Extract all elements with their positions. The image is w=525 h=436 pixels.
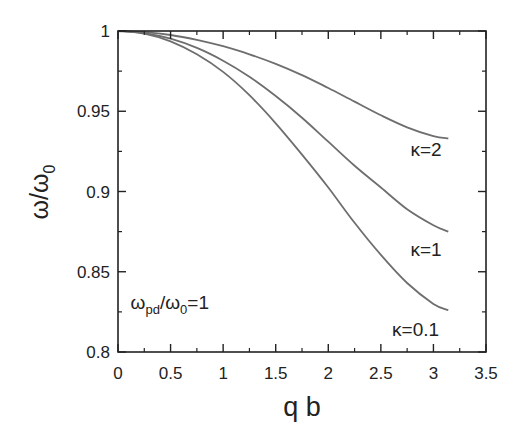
curves bbox=[118, 31, 448, 310]
chart-svg: 00.511.522.533.5 0.80.850.90.951 κ=2κ=1κ… bbox=[0, 0, 525, 436]
y-tick-label: 1 bbox=[101, 22, 110, 41]
annotation-tail: =1 bbox=[187, 292, 209, 313]
series-labels: κ=2κ=1κ=0.1 bbox=[392, 139, 442, 340]
x-tick-label: 0.5 bbox=[159, 364, 183, 383]
x-tick-label: 1.5 bbox=[264, 364, 288, 383]
series-label: κ=1 bbox=[410, 239, 441, 260]
y-axis-label-main: ω/ω bbox=[25, 173, 53, 219]
y-axis-label-sub: 0 bbox=[41, 164, 58, 173]
series-label: κ=0.1 bbox=[392, 319, 439, 340]
y-tick-label: 0.95 bbox=[77, 102, 110, 121]
parameter-annotation: ωpd/ω0=1 bbox=[131, 292, 209, 317]
y-tick-label: 0.85 bbox=[77, 263, 110, 282]
x-tick-label: 2 bbox=[324, 364, 333, 383]
chart-container: 00.511.522.533.5 0.80.850.90.951 κ=2κ=1κ… bbox=[0, 0, 525, 436]
y-axis-label: ω/ω0 bbox=[25, 164, 58, 219]
x-tick-label: 3 bbox=[429, 364, 438, 383]
x-axis-ticks: 00.511.522.533.5 bbox=[113, 31, 498, 383]
x-tick-label: 2.5 bbox=[369, 364, 393, 383]
annotation-omega: ω bbox=[131, 292, 146, 313]
x-tick-label: 0 bbox=[113, 364, 122, 383]
y-tick-label: 0.9 bbox=[86, 183, 110, 202]
series-line bbox=[118, 31, 448, 310]
annotation-slash-omega: /ω bbox=[160, 292, 180, 313]
y-tick-label: 0.8 bbox=[86, 343, 110, 362]
x-tick-label: 1 bbox=[218, 364, 227, 383]
annotation-sub-0: 0 bbox=[180, 302, 187, 317]
x-tick-label: 3.5 bbox=[474, 364, 498, 383]
series-label: κ=2 bbox=[410, 139, 441, 160]
series-line bbox=[118, 31, 448, 139]
x-axis-label: q b bbox=[283, 392, 321, 422]
annotation-sub-pd: pd bbox=[145, 302, 159, 317]
